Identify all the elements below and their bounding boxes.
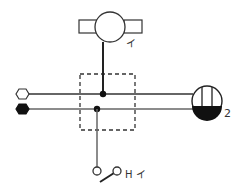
switch-contact-left xyxy=(93,167,101,175)
right-device-filled-half xyxy=(192,106,222,121)
right-device-label: 2 xyxy=(224,107,231,120)
junction-box xyxy=(80,74,135,130)
switch-contact-right xyxy=(113,167,121,175)
top-device-left-rect xyxy=(79,20,97,33)
top-device-label: イ xyxy=(126,38,136,49)
right-device xyxy=(192,86,222,121)
top-device-right-rect xyxy=(124,20,142,33)
top-device-circle xyxy=(95,12,125,42)
wiring-diagram: イ 2 H イ xyxy=(0,0,237,195)
switch-lever xyxy=(100,173,114,182)
terminal-open-hexagon xyxy=(16,89,29,99)
switch xyxy=(93,167,121,182)
terminal-filled-hexagon xyxy=(16,104,29,114)
junction-dot-upper xyxy=(100,91,106,97)
switch-label: H イ xyxy=(125,169,146,180)
